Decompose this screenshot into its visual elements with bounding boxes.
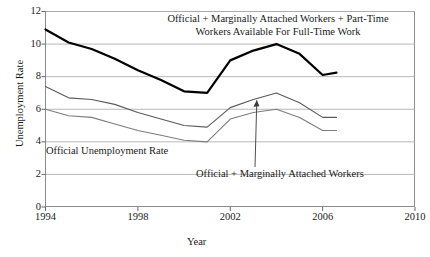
x-tick-label: 2006 [298, 211, 348, 222]
y-tick-label: 12 [1, 6, 41, 16]
y-tick-label: 2 [1, 169, 41, 179]
series-label-marginally-attached: Official + Marginally Attached Workers [196, 168, 364, 181]
y-axis-title: Unemployment Rate [14, 39, 25, 169]
data-series-group [46, 29, 337, 141]
series-label-official: Official Unemployment Rate [46, 145, 168, 158]
y-tick-label: 0 [1, 202, 41, 212]
series-label-broad: Official + Marginally Attached Workers +… [160, 13, 396, 38]
annotation-arrow [253, 100, 259, 167]
x-tick-label: 1994 [21, 211, 71, 222]
y-tick-marks [42, 12, 46, 208]
x-tick-label: 2010 [390, 211, 430, 222]
x-tick-label: 2002 [205, 211, 255, 222]
x-axis-title: Year [187, 236, 206, 247]
x-tick-label: 1998 [113, 211, 163, 222]
